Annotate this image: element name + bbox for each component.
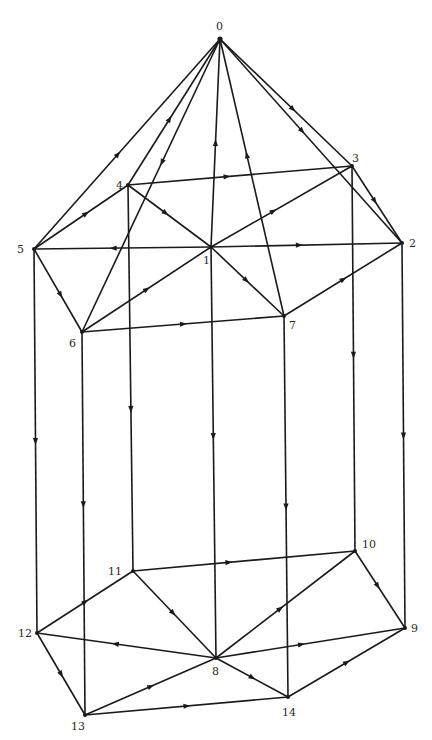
vertex-0 bbox=[217, 36, 222, 41]
edge-3-to-2 bbox=[352, 166, 402, 243]
vertex-label-1: 1 bbox=[203, 254, 210, 267]
vertex-13 bbox=[83, 713, 87, 717]
edge-4-to-0 bbox=[128, 39, 220, 185]
arrowhead-icon bbox=[339, 275, 348, 283]
vertex-8 bbox=[214, 656, 218, 660]
arrowhead-icon bbox=[343, 658, 352, 666]
edges-group bbox=[34, 39, 405, 715]
vertex-label-10: 10 bbox=[362, 538, 376, 551]
arrowhead-icon bbox=[158, 158, 166, 167]
arrowhead-icon bbox=[283, 503, 288, 510]
arrowhead-icon bbox=[296, 242, 303, 247]
vertex-5 bbox=[32, 247, 36, 251]
arrowhead-icon bbox=[211, 433, 216, 440]
vertex-label-9: 9 bbox=[411, 622, 418, 635]
arrowhead-icon bbox=[57, 291, 65, 300]
vertex-label-6: 6 bbox=[69, 337, 76, 350]
vertex-label-11: 11 bbox=[108, 565, 122, 578]
edge-0-to-2 bbox=[220, 39, 402, 243]
edge-5-to-6 bbox=[34, 249, 82, 332]
edge-10-to-9 bbox=[355, 551, 405, 628]
directed-graph-diagram: 01234567891011121314 bbox=[0, 0, 432, 740]
edge-0-to-3 bbox=[220, 39, 352, 166]
edge-1-to-3 bbox=[211, 166, 352, 247]
edge-5-to-4 bbox=[34, 185, 128, 249]
arrowhead-icon bbox=[269, 207, 278, 215]
vertex-label-2: 2 bbox=[409, 237, 416, 250]
arrowhead-icon bbox=[351, 352, 356, 359]
edge-8-to-12 bbox=[37, 633, 216, 658]
vertex-12 bbox=[35, 631, 39, 635]
arrowhead-icon bbox=[225, 559, 232, 565]
vertex-6 bbox=[80, 330, 84, 334]
edge-1-to-2 bbox=[211, 243, 402, 247]
vertex-labels-group: 01234567891011121314 bbox=[17, 20, 418, 733]
arrowheads-group bbox=[33, 105, 406, 709]
vertex-label-8: 8 bbox=[212, 665, 219, 678]
vertex-2 bbox=[400, 241, 404, 245]
edge-4-to-11 bbox=[128, 185, 133, 571]
vertex-label-14: 14 bbox=[282, 706, 296, 719]
vertex-10 bbox=[353, 549, 357, 553]
arrowhead-icon bbox=[128, 406, 133, 413]
edge-0-to-6 bbox=[82, 39, 220, 332]
edge-5-to-0 bbox=[34, 39, 220, 249]
vertex-11 bbox=[131, 569, 135, 573]
arrowhead-icon bbox=[213, 139, 218, 146]
vertex-14 bbox=[286, 695, 290, 699]
vertex-1 bbox=[209, 245, 213, 249]
edge-1-to-8 bbox=[211, 247, 216, 658]
edge-8-to-10 bbox=[216, 551, 355, 658]
arrowhead-icon bbox=[57, 670, 65, 679]
vertex-label-3: 3 bbox=[352, 152, 359, 165]
edge-6-to-13 bbox=[82, 332, 85, 715]
edge-11-to-10 bbox=[133, 551, 355, 571]
edge-4-to-1 bbox=[128, 185, 211, 247]
vertex-label-13: 13 bbox=[71, 720, 85, 733]
vertex-label-0: 0 bbox=[216, 20, 223, 33]
edge-8-to-9 bbox=[216, 628, 405, 658]
vertex-label-4: 4 bbox=[116, 179, 123, 192]
edge-4-to-3 bbox=[128, 166, 352, 185]
vertex-9 bbox=[403, 626, 407, 630]
edge-1-to-5 bbox=[34, 247, 211, 249]
arrowhead-icon bbox=[248, 674, 257, 682]
vertex-label-7: 7 bbox=[289, 319, 296, 332]
vertices-group bbox=[32, 36, 407, 717]
arrowhead-icon bbox=[147, 683, 155, 691]
arrowhead-icon bbox=[33, 438, 38, 445]
arrowhead-icon bbox=[401, 432, 406, 439]
arrowhead-icon bbox=[183, 703, 190, 709]
vertex-7 bbox=[282, 314, 286, 318]
arrowhead-icon bbox=[180, 321, 187, 327]
vertex-label-12: 12 bbox=[18, 627, 32, 640]
vertex-4 bbox=[126, 183, 130, 187]
vertex-label-5: 5 bbox=[17, 243, 24, 256]
arrowhead-icon bbox=[81, 501, 86, 508]
arrowhead-icon bbox=[223, 174, 230, 180]
arrowhead-icon bbox=[110, 245, 117, 250]
edge-7-to-0 bbox=[220, 39, 284, 316]
